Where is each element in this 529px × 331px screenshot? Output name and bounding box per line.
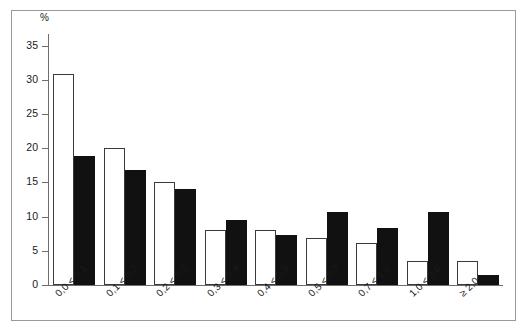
- plot-area: % 05101520253035 0,0 < 0,10,1 < 0,20,2 <…: [0, 0, 529, 331]
- chart-root: % 05101520253035 0,0 < 0,10,1 < 0,20,2 <…: [0, 0, 529, 331]
- bar-open: [154, 182, 175, 285]
- bar-filled: [478, 275, 499, 285]
- bar-open: [104, 148, 125, 285]
- bar-open: [53, 74, 74, 285]
